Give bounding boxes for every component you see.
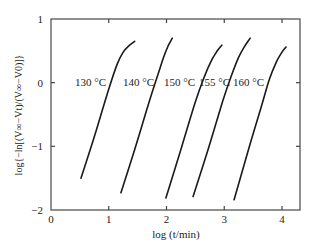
series-label: 140 °C — [123, 76, 154, 88]
x-axis-label: log (t/min) — [152, 228, 200, 241]
x-tick-label: 2 — [164, 213, 170, 225]
series-label: 160 °C — [233, 76, 264, 88]
y-tick-label: −2 — [31, 204, 43, 216]
series-line — [81, 41, 135, 178]
y-tick-label: 1 — [38, 13, 44, 25]
series-label: 130 °C — [75, 76, 106, 88]
axis-ticks: 0123410−1−2 — [31, 13, 300, 225]
chart-svg: 0123410−1−2 130 °C140 °C150 °C155 °C160 … — [0, 0, 316, 251]
series-labels: 130 °C140 °C150 °C155 °C160 °C — [75, 76, 264, 88]
plot-frame — [51, 19, 300, 210]
x-tick-label: 4 — [279, 213, 285, 225]
x-tick-label: 3 — [222, 213, 228, 225]
x-tick-label: 0 — [48, 213, 54, 225]
series-line — [234, 47, 286, 200]
series-label: 155 °C — [199, 76, 230, 88]
series-line — [166, 45, 222, 198]
data-series — [81, 38, 286, 200]
chart-container: 0123410−1−2 130 °C140 °C150 °C155 °C160 … — [0, 0, 316, 251]
y-tick-label: 0 — [38, 77, 44, 89]
x-tick-label: 1 — [106, 213, 112, 225]
y-axis-label: log{−ln[(V∞−Vt)/(V∞−V0)]} — [13, 55, 25, 176]
series-line — [121, 38, 172, 193]
y-tick-label: −1 — [31, 140, 43, 152]
series-label: 150 °C — [164, 76, 195, 88]
axes-box — [51, 19, 300, 210]
